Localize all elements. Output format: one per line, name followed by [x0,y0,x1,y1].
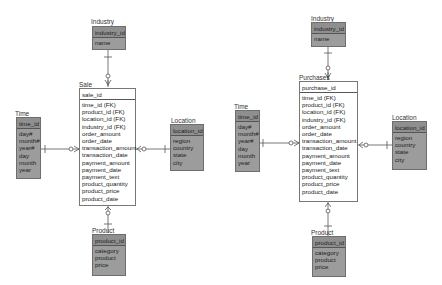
entity-attribute: payment_text [82,173,133,180]
entity-attribute: product_price [302,180,355,187]
entity-attribute: product [95,254,123,261]
entity-attribute: region [173,137,201,144]
location-primary-key: location_id [393,122,426,133]
entity-attribute: industry_id (FK) [302,116,355,123]
entity-attribute: time_id (FK) [82,101,133,108]
entity-attribute: industry_id (FK) [82,123,133,130]
sale-primary-key: sale_id [80,89,135,100]
entity-attribute: transaction_amount [82,144,133,151]
relationship-lines [0,0,442,285]
entity-attribute: product [315,256,343,263]
time-entity[interactable]: time_id day# month# year# day month year [235,110,260,172]
entity-attribute: region [395,134,424,141]
entity-attribute: state [173,151,201,158]
entity-attribute: price [315,263,343,270]
entity-attribute: order_amount [82,130,133,137]
entity-attribute: transaction_date [82,151,133,158]
entity-attribute: city [173,159,201,166]
purchases-entity[interactable]: purchase_id time_id (FK) product_id (FK)… [299,81,358,202]
sale-entity[interactable]: sale_id time_id (FK) product_id (FK) loc… [79,88,136,206]
time-entity-label: Time [234,103,248,110]
entity-attribute: month# [238,130,257,137]
entity-attribute: product_quantity [82,180,133,187]
time-entity-label: Time [15,110,29,117]
entity-attribute: product_id (FK) [302,101,355,108]
entity-attribute: product_date [82,195,133,202]
entity-attribute: payment_date [302,159,355,166]
entity-attribute: day# [19,130,38,137]
location-primary-key: location_id [171,125,203,136]
entity-attribute: month# [19,137,38,144]
entity-attribute: payment_text [302,166,355,173]
entity-attribute: name [95,39,123,46]
industry-entity-label: Industry [91,18,114,25]
entity-attribute: city [395,156,424,163]
product-primary-key: product_id [313,237,345,248]
location-entity[interactable]: location_id region country state city [392,121,427,170]
entity-attribute: location_id (FK) [302,108,355,115]
entity-attribute: category [95,247,123,254]
location-entity-label: Location [171,117,196,124]
entity-attribute: location_id (FK) [82,115,133,122]
location-entity-label: Location [392,114,417,121]
product-primary-key: product_id [93,235,125,246]
entity-attribute: order_amount [302,123,355,130]
entity-attribute: name [314,35,343,42]
industry-entity[interactable]: industry_id name [92,26,126,50]
entity-attribute: year [19,166,38,173]
entity-attribute: day# [238,123,257,130]
entity-attribute: year# [19,144,38,151]
time-primary-key: time_id [236,111,259,122]
entity-attribute: transaction_amount [302,137,355,144]
entity-attribute: category [315,249,343,256]
entity-attribute: year [238,159,257,166]
entity-attribute: order_date [82,137,133,144]
entity-attribute: order_date [302,130,355,137]
entity-attribute: month [19,159,38,166]
industry-entity[interactable]: industry_id name [311,22,346,47]
industry-entity-label: Industry [311,15,334,22]
location-entity[interactable]: location_id region country state city [170,124,204,171]
time-primary-key: time_id [17,118,40,129]
entity-attribute: payment_amount [302,152,355,159]
entity-attribute: country [173,144,201,151]
purchases-primary-key: purchase_id [300,82,357,93]
industry-primary-key: industry_id [93,27,125,38]
product-entity-label: Product [92,227,114,234]
product-entity-label: Product [311,229,333,236]
time-entity[interactable]: time_id day# month# year# day month year [16,117,41,179]
entity-attribute: transaction_date [302,144,355,151]
entity-attribute: product_price [82,187,133,194]
entity-attribute: year# [238,137,257,144]
entity-attribute: time_id (FK) [302,94,355,101]
sale-entity-label: Sale [79,81,92,88]
entity-attribute: month [238,152,257,159]
product-entity[interactable]: product_id category product price [312,236,346,277]
entity-attribute: price [95,261,123,268]
industry-primary-key: industry_id [312,23,345,34]
entity-attribute: product_date [302,188,355,195]
entity-attribute: country [395,141,424,148]
entity-attribute: day [238,145,257,152]
entity-attribute: payment_amount [82,159,133,166]
entity-attribute: product_quantity [302,173,355,180]
entity-attribute: product_id (FK) [82,108,133,115]
product-entity[interactable]: product_id category product price [92,234,126,276]
entity-attribute: state [395,148,424,155]
purchases-entity-label: Purchases [299,74,330,81]
entity-attribute: day [19,152,38,159]
entity-attribute: payment_date [82,166,133,173]
